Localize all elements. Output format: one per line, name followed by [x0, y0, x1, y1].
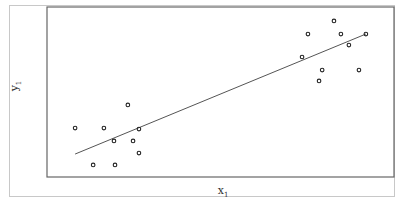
data-point-8 [91, 163, 95, 167]
x-axis-label-subscript: 1 [224, 191, 228, 199]
points-layer [73, 19, 367, 167]
data-point-10 [332, 19, 336, 23]
y-axis-label-subscript: 1 [15, 81, 23, 85]
data-point-5 [112, 139, 116, 143]
data-point-17 [357, 68, 361, 72]
fit-line-layer [75, 34, 366, 154]
x-axis-label: x1 [218, 184, 229, 199]
data-point-2 [102, 126, 106, 130]
y-axis-label: y1 [8, 81, 23, 93]
data-point-15 [300, 55, 304, 59]
scatter-chart: x1 y1 [0, 0, 402, 204]
data-point-7 [137, 151, 141, 155]
data-point-16 [320, 68, 324, 72]
data-point-4 [137, 127, 141, 131]
regression-line [75, 34, 366, 154]
data-point-3 [126, 103, 130, 107]
data-point-11 [306, 32, 310, 36]
data-point-1 [73, 126, 77, 130]
data-point-18 [317, 79, 321, 83]
data-point-12 [339, 32, 343, 36]
data-point-6 [131, 139, 135, 143]
data-point-9 [113, 163, 117, 167]
data-point-14 [347, 43, 351, 47]
